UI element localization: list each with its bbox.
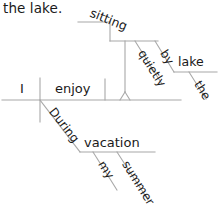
caption-fragment: the lake. — [3, 2, 62, 16]
gerund-tripod-right — [125, 92, 130, 100]
word-prep-object-left: vacation — [84, 136, 140, 149]
word-prep-object-right: lake — [178, 56, 204, 69]
gerund-tripod-left — [120, 92, 125, 100]
word-subject: I — [20, 82, 24, 95]
sentence-diagram: the lake. I enjoy sitting quietly by lak… — [0, 0, 219, 205]
word-verb: enjoy — [55, 82, 91, 95]
